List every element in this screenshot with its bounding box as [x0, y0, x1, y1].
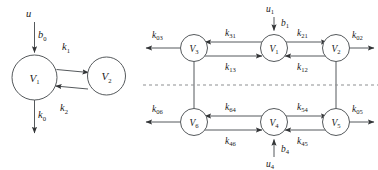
edge-label-u4: u4 [266, 159, 275, 170]
edge-k1-v1-to-v2 [57, 70, 89, 73]
edge-k2-v2-to-v1 [56, 86, 89, 89]
edge-label-k0: k0 [38, 109, 47, 122]
edge-label-u1: u1 [266, 4, 274, 15]
edge-label-k45: k45 [297, 136, 309, 147]
edge-label-k13: k13 [225, 62, 237, 73]
edge-label-k02: k02 [352, 30, 363, 41]
edge-label-b0: b0 [38, 29, 47, 42]
right-panel-group: V3 V1 V2 V6 V4 V5 u1 b1 k03 k31 k21 k02 … [143, 4, 378, 170]
edge-label-k21: k21 [297, 28, 308, 39]
edge-label-k54: k54 [297, 102, 309, 113]
left-panel-group: V1 V2 u b0 k1 k2 k0 [12, 8, 126, 133]
figure-canvas: V1 V2 u b0 k1 k2 k0 [0, 0, 378, 170]
edge-label-k2: k2 [60, 102, 68, 115]
edge-label-k06: k06 [152, 104, 164, 115]
edge-label-k1: k1 [62, 41, 70, 54]
edge-label-k64: k64 [225, 102, 237, 113]
edge-label-u: u [26, 8, 31, 19]
edge-label-b1: b1 [281, 18, 289, 29]
edge-label-k12: k12 [297, 62, 308, 73]
edge-label-k05: k05 [352, 104, 364, 115]
edge-label-b4: b4 [281, 144, 290, 155]
edge-label-k46: k46 [225, 136, 237, 147]
edge-label-k31: k31 [225, 28, 236, 39]
compartment-models-figure: V1 V2 u b0 k1 k2 k0 [0, 0, 378, 170]
edge-label-k03: k03 [152, 30, 164, 41]
